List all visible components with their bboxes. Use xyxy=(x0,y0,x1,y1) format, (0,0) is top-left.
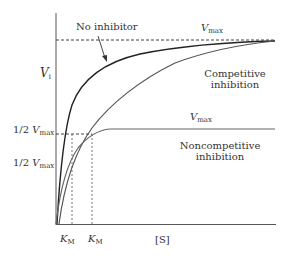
label-noncompetitive-line2: inhibition xyxy=(170,151,270,162)
label-km-2-sub: M xyxy=(95,238,102,246)
label-km-2: KM xyxy=(88,233,103,248)
label-vmax-mid-sub: max xyxy=(197,116,212,124)
label-noncompetitive: Noncompetitive inhibition xyxy=(170,140,270,162)
label-competitive-line1: Competitive xyxy=(200,68,270,79)
label-half-vmax-1-sub: max xyxy=(40,129,55,137)
label-vi-sub: i xyxy=(49,73,51,81)
label-vi: Vi xyxy=(40,68,51,83)
label-substrate: [S] xyxy=(155,234,170,245)
label-competitive-line2: inhibition xyxy=(200,79,270,90)
label-no-inhibitor: No inhibitor xyxy=(76,21,138,32)
label-half-vmax-1: 1/2 Vmax xyxy=(13,124,54,139)
label-competitive: Competitive inhibition xyxy=(200,68,270,90)
label-km-1-sub: M xyxy=(67,238,74,246)
label-half-vmax-1-prefix: 1/2 xyxy=(13,124,32,135)
arrowhead-icon xyxy=(102,55,107,62)
label-vmax-top-sub: max xyxy=(208,27,223,35)
label-half-vmax-2-main: V xyxy=(32,157,39,168)
label-km-1: KM xyxy=(60,233,75,248)
label-half-vmax-2-prefix: 1/2 xyxy=(13,157,32,168)
label-half-vmax-2-sub: max xyxy=(40,162,55,170)
label-half-vmax-1-main: V xyxy=(32,124,39,135)
label-vmax-mid: Vmax xyxy=(190,111,212,126)
label-vmax-top: Vmax xyxy=(201,22,223,37)
label-half-vmax-2: 1/2 Vmax xyxy=(13,157,54,172)
label-vi-main: V xyxy=(40,66,49,80)
no-inhibitor-arrow xyxy=(98,36,105,58)
label-noncompetitive-line1: Noncompetitive xyxy=(170,140,270,151)
